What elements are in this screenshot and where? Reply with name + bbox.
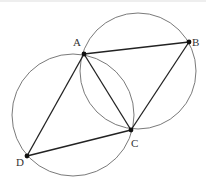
- point-B: [187, 40, 192, 45]
- label-A: A: [73, 36, 81, 48]
- segment-CD: [27, 130, 131, 156]
- segment-BC: [131, 42, 189, 130]
- right-circle: [80, 13, 196, 129]
- segment-DA: [27, 54, 84, 156]
- segments-group: [27, 42, 189, 156]
- segment-AC: [84, 54, 131, 130]
- label-D: D: [16, 156, 24, 168]
- point-A: [82, 52, 87, 57]
- label-B: B: [192, 36, 199, 48]
- geometry-figure: A B C D: [0, 0, 206, 191]
- label-C: C: [131, 137, 138, 149]
- labels-group: A B C D: [16, 36, 199, 168]
- point-D: [25, 154, 30, 159]
- points-group: [25, 40, 192, 159]
- segment-AB: [84, 42, 189, 54]
- circles-group: [12, 13, 196, 176]
- point-C: [129, 128, 134, 133]
- left-circle: [12, 54, 134, 176]
